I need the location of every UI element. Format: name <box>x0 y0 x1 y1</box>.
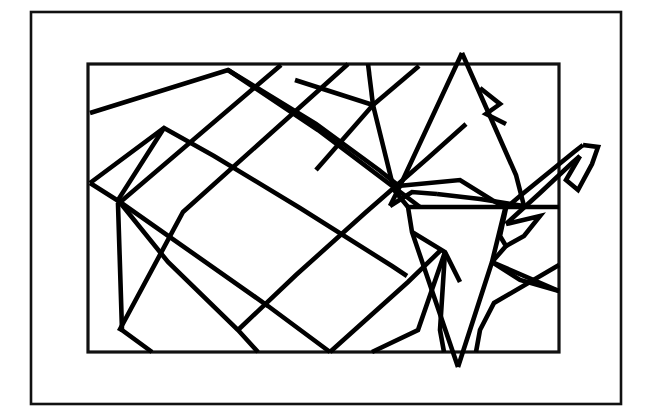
origami-crane-illustration <box>0 0 648 419</box>
figure-container: Black line drawing of a folded paper cra… <box>0 0 648 419</box>
